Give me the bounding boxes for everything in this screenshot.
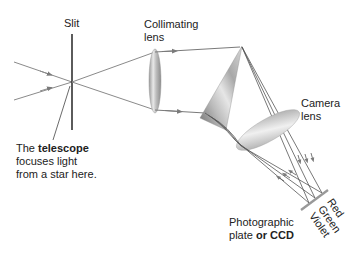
telescope-label-line2: focuses light bbox=[16, 155, 97, 168]
camera-lens-label-line1: Camera bbox=[301, 97, 340, 110]
telescope-label-line1: The telescope bbox=[16, 142, 97, 155]
telescope-label-pre: The bbox=[16, 142, 38, 154]
telescope-label-bold: telescope bbox=[38, 142, 89, 154]
slit-to-collimator-rays bbox=[72, 52, 155, 110]
telescope-label-line3: from a star here. bbox=[16, 168, 97, 181]
prism bbox=[200, 46, 242, 130]
collimating-lens-label-line2: lens bbox=[144, 31, 198, 44]
telescope-pointer bbox=[53, 86, 70, 140]
plate-label-bold: or CCD bbox=[256, 229, 294, 241]
camera-lens-label: Camera lens bbox=[301, 97, 340, 123]
collimating-lens-label-line1: Collimating bbox=[144, 18, 198, 31]
camera-lens-label-line2: lens bbox=[301, 110, 340, 123]
telescope-label: The telescope focuses light from a star … bbox=[16, 142, 97, 181]
collimating-lens bbox=[149, 49, 161, 113]
plate-label-line2: plate or CCD bbox=[229, 229, 294, 242]
slit-label: Slit bbox=[64, 17, 79, 30]
plate-label-pre: plate bbox=[229, 229, 256, 241]
plate-label-line1: Photographic bbox=[229, 216, 294, 229]
collimating-lens-label: Collimating lens bbox=[144, 18, 198, 44]
camera-lens bbox=[231, 102, 304, 157]
plate-label: Photographic plate or CCD bbox=[229, 216, 294, 242]
incoming-rays bbox=[14, 62, 72, 100]
